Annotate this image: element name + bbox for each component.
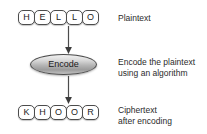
arrow-down-icon xyxy=(63,76,74,104)
plaintext-letter-row: H E L L O xyxy=(18,10,99,25)
plaintext-letter-box: E xyxy=(34,10,51,25)
plaintext-caption: Plaintext xyxy=(118,13,151,24)
ciphertext-letter-box: H xyxy=(34,105,51,120)
ciphertext-letter-box: K xyxy=(18,105,35,120)
ciphertext-letter-box: O xyxy=(50,105,67,120)
ciphertext-letter-box: O xyxy=(66,105,83,120)
encode-caption: Encode the plaintext using an algorithm xyxy=(118,57,195,79)
arrow-down-icon xyxy=(63,26,74,54)
ciphertext-letter-box: R xyxy=(82,105,99,120)
encode-process-label: Encode xyxy=(48,60,79,69)
encoding-diagram: H E L L O Encode K H O O R Plaintext Enc… xyxy=(0,0,207,134)
ciphertext-caption: Ciphertext after encoding xyxy=(118,105,172,127)
ciphertext-letter-row: K H O O R xyxy=(18,105,99,120)
plaintext-letter-box: L xyxy=(66,10,83,25)
plaintext-letter-box: L xyxy=(50,10,67,25)
encode-process-node: Encode xyxy=(30,54,97,75)
plaintext-letter-box: H xyxy=(18,10,35,25)
plaintext-letter-box: O xyxy=(82,10,99,25)
